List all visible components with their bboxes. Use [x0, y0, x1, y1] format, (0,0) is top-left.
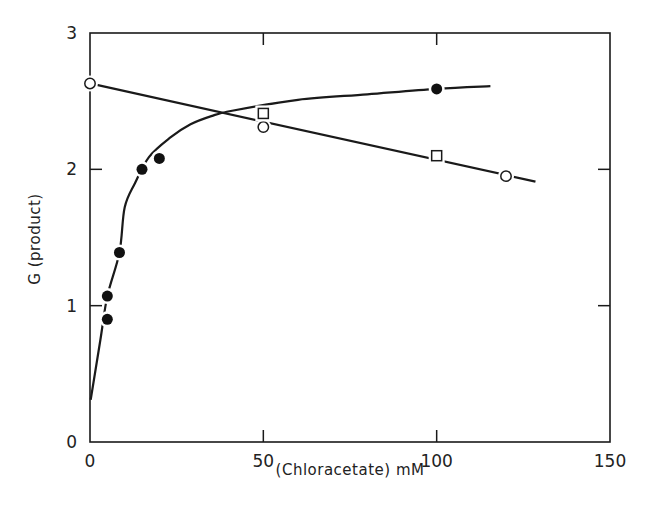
filled-circle-marker — [154, 153, 165, 164]
chart: 0501001500123 (Chloracetate) mM G (produ… — [0, 0, 656, 513]
x-tick-label: 0 — [85, 451, 96, 471]
filled-circle-marker — [114, 247, 125, 258]
plot-border — [90, 33, 610, 442]
plot-frame — [90, 33, 610, 442]
y-tick-label: 2 — [66, 159, 77, 179]
x-tick-label: 150 — [594, 451, 626, 471]
y-axis-label: G (product) — [26, 193, 44, 284]
open-square-marker — [432, 151, 442, 161]
axis-ticks — [90, 33, 610, 442]
tick-labels: 0501001500123 — [66, 23, 626, 471]
filled-circle-marker — [431, 83, 442, 94]
filled-circle-marker — [102, 314, 113, 325]
open-circle-marker — [85, 78, 95, 88]
y-tick-label: 0 — [66, 432, 77, 452]
open-square-marker — [258, 108, 268, 118]
y-tick-label: 3 — [66, 23, 77, 43]
saturation-curve — [91, 86, 491, 400]
y-tick-label: 1 — [66, 296, 77, 316]
open-circle-marker — [258, 122, 268, 132]
filled-circle-marker — [102, 291, 113, 302]
x-tick-label: 50 — [253, 451, 275, 471]
open-circle-marker — [501, 171, 511, 181]
fit-lines — [90, 83, 535, 399]
x-tick-label: 100 — [420, 451, 452, 471]
data-markers — [82, 75, 514, 327]
filled-circle-marker — [137, 164, 148, 175]
x-axis-label: (Chloracetate) mM — [276, 461, 425, 479]
